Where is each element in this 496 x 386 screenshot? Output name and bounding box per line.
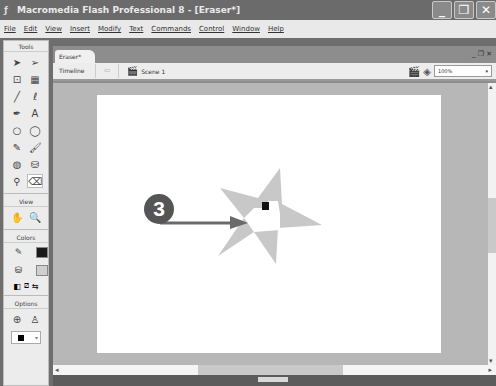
oval-tool-icon[interactable]: ○	[9, 123, 25, 137]
line-tool-icon[interactable]: ╱	[9, 89, 25, 103]
paint-bucket-tool-icon[interactable]: ⛁	[27, 157, 43, 171]
document-tab[interactable]: Eraser*	[55, 50, 95, 63]
fill-color-swatch[interactable]	[36, 265, 48, 276]
window-controls: _ ❐ ✕	[432, 1, 496, 19]
back-arrow-icon[interactable]: ⇦	[96, 64, 120, 78]
stroke-color-row: ✎	[4, 243, 48, 261]
chevron-down-icon: ▾	[485, 68, 488, 74]
eraser-shape-square-icon	[18, 335, 24, 341]
menu-modify[interactable]: Modify	[98, 25, 121, 33]
brush-tool-icon[interactable]: 🖌	[27, 140, 43, 154]
flash-app-icon: ƒ	[4, 5, 13, 16]
tools-grid: ➤ ➢ ⊡ ▦ ╱ ℓ ✒ A ○ ◯ ✎ 🖌 ◍ ⛁ ⚲ ⌫	[4, 52, 48, 191]
rectangle-tool-icon[interactable]: ◯	[27, 123, 43, 137]
menu-help[interactable]: Help	[268, 25, 284, 33]
eraser-mode-icon[interactable]: ⊕	[9, 312, 25, 326]
colors-header: Colors	[4, 232, 48, 243]
eyedropper-tool-icon[interactable]: ⚲	[9, 174, 25, 188]
menu-edit[interactable]: Edit	[24, 25, 38, 33]
panel-resize-handle[interactable]	[258, 377, 288, 382]
step-callout-badge: 3	[144, 194, 174, 224]
divider	[4, 193, 48, 194]
pen-tool-icon[interactable]: ✒	[9, 106, 25, 120]
callout-arrow-icon	[160, 212, 250, 232]
menu-bar: File Edit View Insert Modify Text Comman…	[0, 20, 496, 38]
faucet-icon[interactable]: ♙	[27, 312, 43, 326]
scene-clapper-icon: 🎬	[127, 66, 138, 76]
view-header: View	[4, 196, 48, 207]
scroll-up-icon[interactable]: ▴	[489, 83, 493, 91]
options-grid: ⊕ ♙	[4, 309, 48, 329]
chevron-down-icon: ▾	[35, 334, 38, 341]
options-header: Options	[4, 298, 48, 309]
close-button[interactable]: ✕	[476, 1, 496, 19]
stroke-pencil-icon: ✎	[11, 245, 27, 259]
panel-collapse-strip	[53, 375, 496, 386]
edit-symbols-icon[interactable]: ◈	[423, 66, 431, 77]
menu-commands[interactable]: Commands	[151, 25, 191, 33]
menu-view[interactable]: View	[45, 25, 62, 33]
no-color-icon[interactable]: ⧄	[24, 281, 29, 291]
menu-insert[interactable]: Insert	[70, 25, 90, 33]
zoom-tool-icon[interactable]: 🔍	[27, 210, 43, 224]
timeline-button[interactable]: Timeline	[53, 64, 96, 78]
restore-button[interactable]: ❐	[454, 1, 474, 19]
scroll-down-icon[interactable]: ▾	[489, 357, 493, 365]
fill-bucket-icon: ⛁	[11, 263, 27, 277]
view-tools-grid: ✋ 🔍	[4, 207, 48, 227]
pencil-tool-icon[interactable]: ✎	[9, 140, 25, 154]
zoom-value: 100%	[438, 68, 452, 74]
selection-tool-icon[interactable]: ➤	[9, 55, 25, 69]
ink-bottle-tool-icon[interactable]: ◍	[9, 157, 25, 171]
fill-transform-tool-icon[interactable]: ▦	[27, 72, 43, 86]
stroke-color-swatch[interactable]	[36, 247, 48, 258]
window-title: Macromedia Flash Professional 8 - [Erase…	[17, 5, 240, 15]
subselection-tool-icon[interactable]: ➢	[27, 55, 43, 69]
hand-tool-icon[interactable]: ✋	[9, 210, 25, 224]
menu-control[interactable]: Control	[199, 25, 224, 33]
horizontal-scroll-thumb[interactable]	[198, 365, 343, 375]
horizontal-scrollbar[interactable]: ◂ ▸	[53, 365, 496, 375]
edit-bar: Timeline ⇦ 🎬 Scene 1 🎬 ◈ 100% ▾	[53, 63, 496, 81]
edit-bar-right-tools: 🎬 ◈ 100% ▾	[408, 65, 492, 77]
menu-window[interactable]: Window	[232, 25, 260, 33]
eraser-shape-dropdown[interactable]: ▾	[11, 331, 41, 344]
vertical-scroll-thumb[interactable]	[488, 198, 496, 253]
color-buttons-row: ◧ ⧄ ⇆	[4, 279, 48, 293]
minimize-button[interactable]: _	[432, 1, 452, 19]
vertical-scrollbar[interactable]: ▴ ▾	[488, 83, 496, 365]
scene-label: Scene 1	[141, 68, 165, 75]
eraser-tool-icon[interactable]: ⌫	[27, 174, 43, 188]
title-bar: ƒ Macromedia Flash Professional 8 - [Era…	[0, 0, 496, 20]
black-white-icon[interactable]: ◧	[13, 282, 21, 291]
zoom-dropdown[interactable]: 100% ▾	[434, 65, 492, 77]
tools-panel: Tools ➤ ➢ ⊡ ▦ ╱ ℓ ✒ A ○ ◯ ✎ 🖌 ◍ ⛁ ⚲ ⌫ Vi…	[3, 40, 49, 386]
tools-header: Tools	[4, 41, 48, 52]
swap-colors-icon[interactable]: ⇆	[32, 282, 39, 291]
edit-scene-icon[interactable]: 🎬	[408, 66, 420, 77]
menu-text[interactable]: Text	[129, 25, 143, 33]
eraser-shape-row: ▾	[4, 329, 48, 346]
menu-file[interactable]: File	[4, 25, 16, 33]
divider	[4, 229, 48, 230]
scroll-right-icon[interactable]: ▸	[488, 366, 492, 374]
fill-color-row: ⛁	[4, 261, 48, 279]
free-transform-tool-icon[interactable]: ⊡	[9, 72, 25, 86]
scene-breadcrumb[interactable]: 🎬 Scene 1	[119, 66, 165, 76]
text-tool-icon[interactable]: A	[27, 106, 43, 120]
document-window-controls[interactable]: _ ❐ ✕	[472, 50, 492, 58]
scroll-left-icon[interactable]: ◂	[55, 366, 59, 374]
lasso-tool-icon[interactable]: ℓ	[27, 89, 43, 103]
divider	[4, 295, 48, 296]
